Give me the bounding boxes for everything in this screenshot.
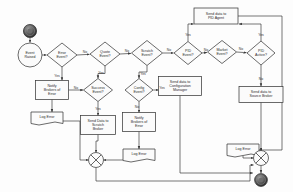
edge-label-quote-yes: Yes [98, 71, 104, 75]
edge-label-pid-evt-yes: Yes [185, 33, 191, 37]
edge-label-config-yes: Yes [159, 86, 165, 90]
node-start [23, 24, 36, 37]
node-notify-err-1 [36, 81, 69, 100]
node-log-error-2 [123, 149, 155, 162]
flowchart-svg [0, 0, 293, 192]
node-pid-active [247, 41, 275, 65]
node-scratch-event [132, 41, 163, 66]
node-send-pid [194, 8, 238, 24]
edge-label-success-yes: Yes [95, 107, 101, 111]
edge-label-pid-no: No [204, 48, 208, 52]
node-merge-left [89, 153, 104, 168]
edge-label-scratch-yes: Yes [140, 72, 146, 76]
edge-label-market-no: No [239, 47, 243, 51]
edge-label-config-no: No [135, 105, 139, 109]
node-market-event [208, 41, 237, 64]
node-send-scratch [81, 116, 116, 135]
node-send-source [239, 87, 283, 103]
node-end [255, 174, 268, 187]
node-log-error-1 [31, 112, 63, 125]
node-success-event [84, 79, 113, 102]
edge-label-scratch-no: No [167, 48, 171, 52]
node-pid-event [174, 42, 202, 65]
edge-label-pid-act-yes: Yes [258, 33, 264, 37]
node-error-event [47, 43, 77, 67]
edge-label-notify-no: No [74, 86, 78, 90]
node-notify-err-2 [123, 113, 156, 132]
edge-label-pid-act-no: No [259, 77, 263, 81]
node-event-raised [18, 43, 42, 67]
edge-label-error-no: No [83, 50, 87, 54]
node-config-event [125, 79, 153, 102]
node-merge-right [254, 151, 269, 166]
node-quote-event [90, 42, 120, 66]
edge-label-quote-no: No [125, 49, 129, 53]
edge-label-error-yes: Yes [54, 74, 60, 78]
flowchart-canvas: Event Raised Error Event? Quote Event? S… [0, 0, 293, 192]
